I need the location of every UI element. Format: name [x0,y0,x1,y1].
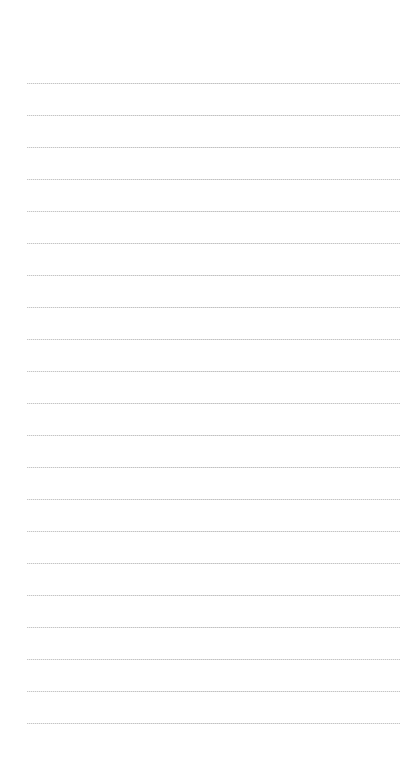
ruled-line [27,339,400,340]
ruled-line [27,595,400,596]
ruled-line [27,371,400,372]
ruled-line [27,307,400,308]
ruled-line [27,467,400,468]
ruled-line [27,627,400,628]
ruled-line [27,499,400,500]
notepad-page [0,0,415,771]
ruled-line [27,243,400,244]
ruled-line [27,179,400,180]
ruled-line [27,403,400,404]
ruled-line [27,723,400,724]
ruled-line [27,115,400,116]
ruled-line [27,691,400,692]
ruled-line [27,275,400,276]
ruled-line [27,531,400,532]
ruled-line [27,563,400,564]
ruled-line [27,435,400,436]
ruled-line [27,211,400,212]
ruled-line [27,659,400,660]
ruled-line [27,147,400,148]
ruled-line [27,83,400,84]
